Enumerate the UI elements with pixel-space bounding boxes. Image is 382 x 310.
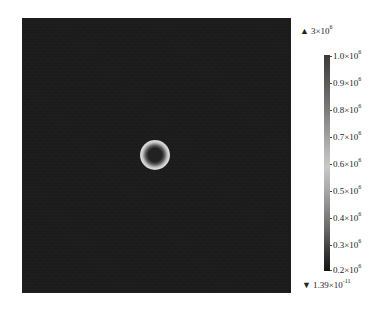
colorbar-tick: 0.5×106 [330, 187, 361, 196]
colorbar-tick: 0.2×106 [330, 266, 361, 275]
heatmap-plot [22, 18, 291, 293]
colorbar-tick: 0.7×106 [330, 133, 361, 142]
colorbar-tick: 0.4×106 [330, 214, 361, 223]
colorbar-max-label: ▲3×106 [300, 26, 333, 36]
colorbar-tick: 0.3×106 [330, 241, 361, 250]
colorbar-min-label: ▼1.39×10-11 [302, 280, 351, 290]
colorbar-tick: 0.9×106 [330, 79, 361, 88]
colorbar-tick: 0.8×106 [330, 106, 361, 115]
up-triangle-icon: ▲ [300, 26, 309, 36]
colorbar-tick: 1.0×106 [330, 52, 361, 61]
colorbar-tick: 0.6×106 [330, 160, 361, 169]
bright-ring-feature [140, 140, 170, 170]
down-triangle-icon: ▼ [302, 280, 311, 290]
